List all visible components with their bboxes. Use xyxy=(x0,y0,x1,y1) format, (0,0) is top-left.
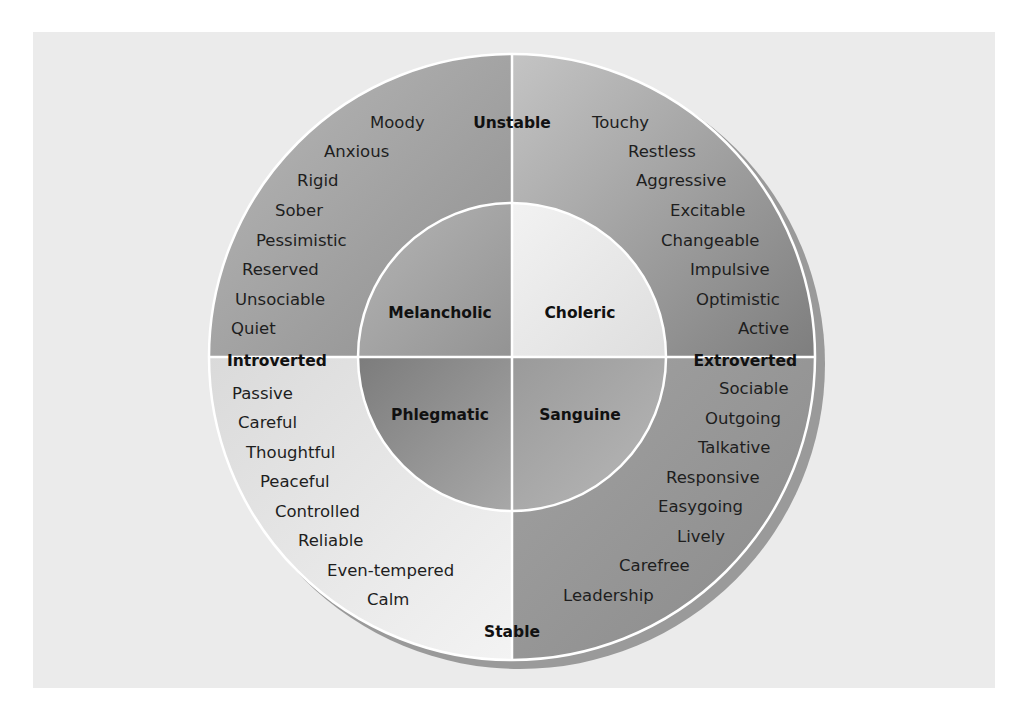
trait-sober: Sober xyxy=(275,201,323,220)
temperament-phlegmatic: Phlegmatic xyxy=(391,406,489,424)
trait-changeable: Changeable xyxy=(661,231,760,250)
trait-touchy: Touchy xyxy=(591,113,649,132)
trait-talkative: Talkative xyxy=(697,438,770,457)
trait-peaceful: Peaceful xyxy=(260,472,330,491)
temperament-sanguine: Sanguine xyxy=(539,406,621,424)
trait-impulsive: Impulsive xyxy=(690,260,770,279)
trait-rigid: Rigid xyxy=(297,171,339,190)
trait-excitable: Excitable xyxy=(670,201,745,220)
trait-calm: Calm xyxy=(367,590,409,609)
trait-easygoing: Easygoing xyxy=(658,497,743,516)
trait-even-tempered: Even-tempered xyxy=(327,561,454,580)
trait-carefree: Carefree xyxy=(619,556,690,575)
temperament-melancholic: Melancholic xyxy=(388,304,491,322)
trait-reliable: Reliable xyxy=(298,531,363,550)
trait-moody: Moody xyxy=(370,113,425,132)
trait-quiet: Quiet xyxy=(231,319,276,338)
axis-label-extroverted: Extroverted xyxy=(693,352,797,370)
axis-label-introverted: Introverted xyxy=(227,352,327,370)
axis-label-stable: Stable xyxy=(484,623,540,641)
trait-leadership: Leadership xyxy=(563,586,654,605)
trait-passive: Passive xyxy=(232,384,293,403)
trait-lively: Lively xyxy=(677,527,725,546)
trait-active: Active xyxy=(738,319,789,338)
trait-optimistic: Optimistic xyxy=(696,290,780,309)
trait-aggressive: Aggressive xyxy=(636,171,727,190)
axis-label-unstable: Unstable xyxy=(473,114,551,132)
trait-unsociable: Unsociable xyxy=(235,290,325,309)
trait-responsive: Responsive xyxy=(666,468,760,487)
temperament-choleric: Choleric xyxy=(544,304,615,322)
trait-controlled: Controlled xyxy=(275,502,360,521)
trait-thoughtful: Thoughtful xyxy=(245,443,335,462)
trait-careful: Careful xyxy=(238,413,297,432)
trait-pessimistic: Pessimistic xyxy=(256,231,347,250)
trait-reserved: Reserved xyxy=(242,260,319,279)
trait-anxious: Anxious xyxy=(324,142,389,161)
trait-restless: Restless xyxy=(628,142,696,161)
trait-sociable: Sociable xyxy=(719,379,789,398)
trait-outgoing: Outgoing xyxy=(705,409,781,428)
temperament-circle-diagram: Unstable Stable Introverted Extroverted … xyxy=(0,0,1016,709)
